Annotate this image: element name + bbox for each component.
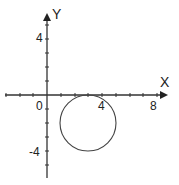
x-axis-label: X bbox=[160, 75, 169, 89]
x-arrow-icon bbox=[160, 91, 168, 99]
y-axis-label: Y bbox=[52, 7, 61, 21]
y-arrow-icon bbox=[43, 13, 51, 21]
axes-svg bbox=[0, 0, 179, 185]
circle-shape bbox=[60, 95, 116, 151]
y-tick-4: 4 bbox=[36, 32, 43, 44]
origin-label: 0 bbox=[36, 100, 43, 112]
coordinate-plane: Y X 4 0 4 8 -4 bbox=[0, 0, 179, 185]
x-tick-8: 8 bbox=[150, 100, 157, 112]
x-tick-4: 4 bbox=[98, 100, 105, 112]
y-tick-neg4: -4 bbox=[29, 146, 40, 158]
